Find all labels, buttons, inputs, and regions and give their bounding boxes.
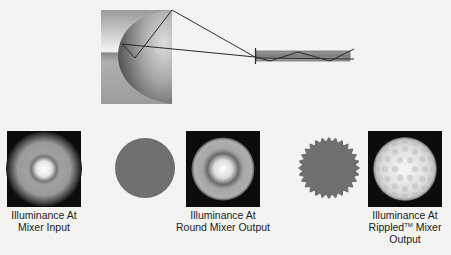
illuminance-speckle (412, 183, 418, 189)
illuminance-speckle (413, 192, 419, 198)
illuminance-speckle (413, 140, 419, 146)
illuminance-speckle (412, 166, 418, 172)
illuminance-speckle (430, 166, 436, 172)
caption-mixer-input: Illuminance At Mixer Input (0, 209, 99, 233)
illuminance-speckle (412, 149, 418, 155)
illuminance-speckle (402, 194, 408, 200)
illuminance-speckle (392, 183, 398, 189)
illuminance-speckle (397, 157, 403, 163)
illuminance-speckle (428, 155, 434, 161)
illuminance-speckle (402, 186, 408, 192)
illuminance-speckle (382, 146, 388, 152)
illuminance-speckle (422, 186, 428, 192)
round-mixer-cross-section (115, 138, 175, 198)
illuminance-speckle (419, 176, 425, 182)
illuminance-speckle (385, 176, 391, 182)
illuminance-map-mixer-input (6, 131, 82, 207)
caption-line: Mixer Input (0, 221, 99, 233)
illuminance-speckle (422, 166, 428, 172)
illuminance-speckle (407, 175, 413, 181)
illuminance-speckle (382, 186, 388, 192)
illuminance-speckle (397, 175, 403, 181)
illuminance-speckle (376, 177, 382, 183)
illuminance-speckle (392, 149, 398, 155)
caption-rippled-mixer-output: Illuminance At RippledTM Mixer Output (350, 209, 451, 245)
caption-line: Output (350, 233, 451, 245)
rippled-mixer-cross-section (298, 137, 360, 199)
illuminance-speckle (382, 166, 388, 172)
mixer-rod-body (256, 51, 350, 61)
caption-line: Illuminance At (0, 209, 99, 221)
illuminance-speckle (392, 166, 398, 172)
illuminance-speckle (376, 155, 382, 161)
caption-text: Rippled (369, 221, 405, 233)
caption-text: Mixer (413, 221, 442, 233)
caption-line: RippledTM Mixer (350, 221, 451, 233)
trademark-superscript: TM (404, 222, 413, 228)
illuminance-speckle (422, 146, 428, 152)
illuminance-speckle (374, 166, 380, 172)
illuminance-speckle (407, 157, 413, 163)
illuminance-speckle (391, 140, 397, 146)
illuminance-speckle (419, 156, 425, 162)
illuminance-map-round-mixer-output (186, 131, 260, 207)
illuminance-speckle (391, 192, 397, 198)
mixer-rod (256, 48, 351, 64)
caption-line: Round Mixer Output (168, 221, 278, 233)
illuminance-speckle (402, 146, 408, 152)
illuminance-map-rippled-mixer-output (368, 131, 442, 207)
illuminance-speckle (385, 156, 391, 162)
illuminance-speckle (402, 138, 408, 144)
caption-line: Illuminance At (350, 209, 451, 221)
illuminance-speckle (428, 177, 434, 183)
caption-line: Illuminance At (168, 209, 278, 221)
caption-round-mixer-output: Illuminance At Round Mixer Output (168, 209, 278, 233)
